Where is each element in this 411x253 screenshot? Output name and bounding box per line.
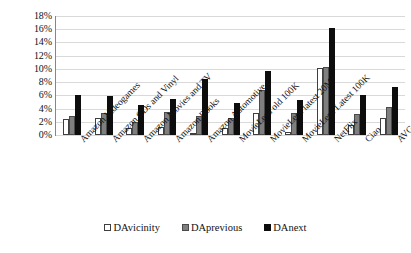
legend-label: DAnext — [273, 222, 306, 233]
y-axis-tick-label: 12% — [0, 51, 52, 61]
x-axis-tick-label: Ciao — [363, 137, 370, 144]
x-axis-labels: Amazon VideogamesAmazon CDs and VinylAma… — [56, 135, 405, 215]
x-axis-tick-label: MovieLens latest 20M — [268, 137, 275, 144]
y-axis-tick-label: 16% — [0, 24, 52, 34]
y-axis-tick-label: 18% — [0, 11, 52, 21]
legend-label: DAvicinity — [113, 222, 159, 233]
legend-item[interactable]: DAprevious — [182, 222, 242, 233]
x-axis-tick-label: Amazon Movies and TV — [141, 137, 148, 144]
bar-group — [373, 16, 405, 135]
legend-label: DAprevious — [191, 222, 242, 233]
legend-item[interactable]: DAvicinity — [104, 222, 159, 233]
y-axis-tick-label: 6% — [0, 90, 52, 100]
y-axis-tick-label: 4% — [0, 104, 52, 114]
legend-swatch-icon — [104, 224, 111, 231]
x-axis-tick-label: Amazon Automotive — [205, 137, 212, 144]
x-axis-tick-label: AVG — [395, 137, 402, 144]
y-axis-tick-label: 8% — [0, 77, 52, 87]
chart-legend: DAvicinityDApreviousDAnext — [0, 222, 411, 233]
bar — [360, 95, 366, 135]
x-axis-tick-label: Amazon CDs and Vinyl — [110, 137, 117, 144]
x-axis-tick-label: Amazon Videogames — [78, 137, 85, 144]
legend-item[interactable]: DAnext — [264, 222, 306, 233]
y-axis-tick-label: 0% — [0, 130, 52, 140]
bar-group — [342, 16, 374, 135]
bar-chart: 18%16%14%12%10%8%6%4%2%0% Amazon Videoga… — [0, 0, 411, 253]
y-axis-tick-label: 10% — [0, 64, 52, 74]
legend-swatch-icon — [264, 224, 271, 231]
y-axis-tick-label: 14% — [0, 37, 52, 47]
bar-group — [56, 16, 88, 135]
x-axis-tick-label: NetFlix — [332, 137, 339, 144]
legend-swatch-icon — [182, 224, 189, 231]
x-axis-tick-label: MovieLens old 100K — [237, 137, 244, 144]
x-axis-tick-label: MovieLens Latest 100K — [300, 137, 307, 144]
bar — [392, 87, 398, 135]
y-axis-tick-label: 2% — [0, 117, 52, 127]
x-axis-tick-label: Amazon Books — [173, 137, 180, 144]
bar — [75, 95, 81, 135]
y-axis-labels: 18%16%14%12%10%8%6%4%2%0% — [0, 0, 52, 253]
